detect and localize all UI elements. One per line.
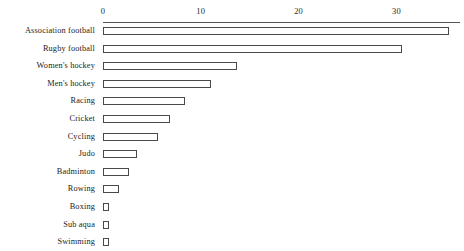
category-label: Rugby football [43, 40, 95, 58]
bar-rows: Association footballRugby footballWomen'… [0, 22, 464, 251]
bar-track [103, 22, 464, 40]
bar-row: Boxing [0, 198, 464, 216]
bar [103, 133, 158, 141]
bar [103, 168, 129, 176]
bar [103, 45, 402, 53]
bar-row: Sub aqua [0, 216, 464, 234]
bar [103, 185, 119, 193]
bar [103, 115, 170, 123]
x-tick-label: 0 [101, 6, 105, 17]
bar-track [103, 40, 464, 58]
category-label: Men's hockey [47, 75, 95, 93]
bar-track [103, 128, 464, 146]
x-tick-label: 20 [294, 6, 303, 17]
bar-track [103, 75, 464, 93]
bar-row: Swimming [0, 233, 464, 251]
category-label: Judo [79, 145, 95, 163]
bar-track [103, 57, 464, 75]
bar-row: Badminton [0, 163, 464, 181]
bar-row: Association football [0, 22, 464, 40]
bar-row: Rugby football [0, 40, 464, 58]
bar-track [103, 145, 464, 163]
bar-row: Judo [0, 145, 464, 163]
x-tick-label: 30 [392, 6, 401, 17]
category-label: Boxing [70, 198, 95, 216]
bar-row: Men's hockey [0, 75, 464, 93]
x-tick-label: 10 [196, 6, 205, 17]
bar [103, 97, 185, 105]
bar [103, 238, 109, 246]
category-label: Women's hockey [37, 57, 95, 75]
bar-track [103, 233, 464, 251]
bar [103, 80, 211, 88]
category-label: Badminton [57, 163, 95, 181]
bar-row: Rowing [0, 180, 464, 198]
bar-row: Cricket [0, 110, 464, 128]
bar-track [103, 216, 464, 234]
bar [103, 150, 137, 158]
category-label: Rowing [68, 180, 95, 198]
bar-row: Racing [0, 92, 464, 110]
x-axis-tick-labels: 0102030 [0, 6, 464, 20]
category-label: Cricket [70, 110, 95, 128]
category-label: Racing [71, 92, 95, 110]
bar-track [103, 198, 464, 216]
bar [103, 27, 449, 35]
bar-row: Cycling [0, 128, 464, 146]
bar-chart: 0102030 Association footballRugby footba… [0, 0, 464, 251]
bar [103, 221, 109, 229]
bar-track [103, 110, 464, 128]
bar [103, 203, 109, 211]
bar-track [103, 180, 464, 198]
bar [103, 62, 237, 70]
category-label: Association football [25, 22, 95, 40]
bar-row: Women's hockey [0, 57, 464, 75]
category-label: Cycling [68, 128, 95, 146]
category-label: Sub aqua [63, 216, 95, 234]
category-label: Swimming [57, 233, 95, 251]
bar-track [103, 92, 464, 110]
bar-track [103, 163, 464, 181]
